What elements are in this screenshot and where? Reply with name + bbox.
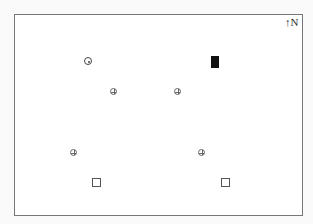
square-marker	[221, 178, 230, 187]
circle-plus-marker	[198, 149, 205, 156]
filled-rect-marker	[211, 56, 219, 68]
circle-plus-marker	[70, 149, 77, 156]
circle-plus-marker	[110, 88, 117, 95]
diagram-frame	[14, 14, 303, 216]
square-marker	[92, 178, 101, 187]
circle-dot-marker	[84, 57, 92, 65]
north-arrow-label: ↑N	[285, 17, 298, 28]
circle-plus-marker	[174, 88, 181, 95]
